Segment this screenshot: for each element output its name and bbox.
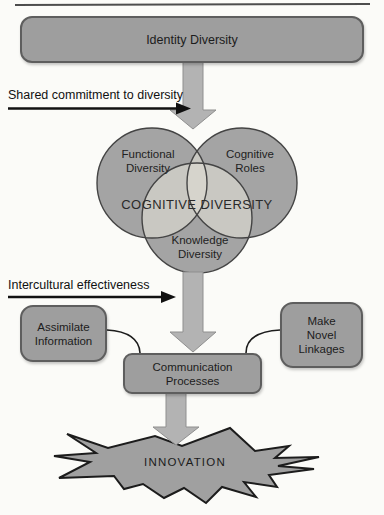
innovation-label: INNOVATION [125, 456, 245, 468]
top-rule-line [15, 4, 370, 5]
connector-novel-to-communication [246, 330, 280, 353]
cognitive-diversity-label: COGNITIVE DIVERSITY [92, 197, 302, 212]
identity-diversity-box: Identity Diversity [20, 16, 364, 63]
identity-diversity-label: Identity Diversity [146, 33, 238, 47]
communication-processes-box: Communication Processes [123, 353, 262, 394]
cognitive-roles-label: Cognitive Roles [200, 147, 300, 175]
knowledge-diversity-label: Knowledge Diversity [150, 233, 250, 261]
shared-commitment-arrow [8, 103, 191, 115]
assimilate-information-box: Assimilate Information [20, 305, 107, 362]
make-novel-linkages-box: Make Novel Linkages [280, 302, 363, 368]
shared-commitment-callout: Shared commitment to diversity [8, 88, 183, 102]
intercultural-effectiveness-callout: Intercultural effectiveness [8, 278, 150, 292]
arrow-venn-to-communication [170, 272, 216, 352]
diagram-canvas: Identity Diversity Shared commitment to … [0, 0, 384, 515]
functional-diversity-label: Functional Diversity [98, 147, 198, 175]
connector-assimilate-to-communication [107, 330, 140, 353]
intercultural-effectiveness-arrow [8, 291, 176, 303]
